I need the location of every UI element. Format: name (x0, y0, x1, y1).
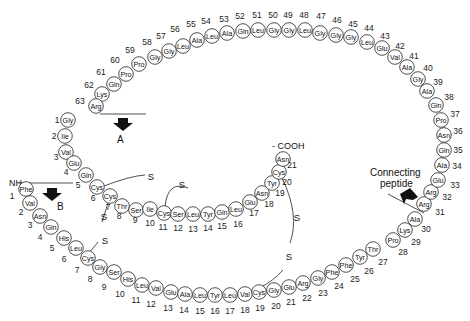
residue-abbr: Leu (361, 38, 373, 47)
residue-number: 16 (210, 306, 220, 316)
chain-b-label: B (57, 201, 64, 212)
residue-abbr: Arg (418, 200, 429, 209)
residue-a-13: Leu13 (186, 207, 201, 234)
residue-number: 17 (225, 306, 235, 316)
residue-abbr: Thr (368, 245, 379, 254)
residue-abbr: Cys (82, 254, 95, 263)
residue-number: 20 (271, 301, 281, 311)
residue-number: 14 (179, 305, 189, 315)
residue-abbr: Leu (299, 26, 311, 35)
residue-abbr: Asn (438, 131, 450, 140)
residue-abbr: Cys (253, 288, 266, 297)
residue-abbr: Ala (410, 215, 420, 224)
residue-b-22: Arg22 (296, 276, 312, 303)
residue-number: 1 (10, 191, 15, 201)
residue-number: 42 (395, 41, 405, 51)
residue-number: 41 (409, 51, 419, 61)
residue-a-14: Tyr14 (201, 207, 216, 233)
chain-a: Gly1Ile2Val3Glu4Gln5Cys6Cys7Thr8Ser9Ile1… (52, 113, 297, 234)
residue-number: 51 (252, 10, 262, 20)
residue-a-6: Cys6 (90, 180, 105, 203)
residue-number: 53 (219, 14, 229, 24)
residue-number: 58 (142, 37, 152, 47)
residue-abbr: Leu (177, 42, 189, 51)
residue-number: 30 (421, 224, 431, 234)
residue-abbr: Gly (269, 286, 280, 295)
residue-abbr: Lys (400, 226, 411, 235)
residue-number: 54 (201, 16, 211, 26)
residue-number: 48 (299, 10, 309, 20)
residue-abbr: Gly (315, 29, 326, 38)
residue-abbr: Ala (180, 290, 190, 299)
residue-abbr: Glu (165, 288, 176, 297)
residue-number: 2 (19, 207, 24, 217)
residue-abbr: His (59, 234, 70, 243)
residue-number: 35 (453, 145, 463, 155)
residue-b-18: Val18 (238, 287, 253, 315)
residue-number: 26 (364, 266, 374, 276)
residue-abbr: Leu (206, 32, 218, 41)
residue-number: 4 (38, 232, 43, 242)
residue-number: 43 (380, 31, 390, 41)
residue-c-53: Ala53 (219, 14, 234, 40)
residue-number: 8 (117, 211, 122, 221)
residue-abbr: Ile (61, 132, 69, 141)
residue-number: 44 (364, 23, 374, 33)
residue-abbr: Gln (216, 208, 227, 217)
residue-abbr: Asn (34, 212, 46, 221)
residue-number: 50 (268, 10, 278, 20)
residue-c-47: Gly47 (313, 11, 328, 40)
residue-c-52: Gln52 (235, 11, 250, 38)
residue-number: 25 (350, 274, 360, 284)
residue-abbr: Glu (68, 159, 79, 168)
residue-number: 8 (88, 274, 93, 284)
residue-a-1: Gly1 (55, 113, 76, 128)
residue-abbr: Gln (108, 80, 119, 89)
residue-abbr: Glu (244, 198, 255, 207)
residue-abbr: Gly (413, 75, 424, 84)
residue-a-11: Cys11 (157, 206, 172, 232)
chain-b: Phe1Val2Asn3Gln4His5Leu6Cys7Gly8Ser9His1… (10, 182, 431, 316)
residue-a-2: Ile2 (52, 129, 73, 144)
residue-number: 19 (275, 188, 285, 198)
sulfur-label: S (286, 251, 292, 262)
residue-abbr: Phe (326, 268, 339, 277)
residue-c-48: Leu48 (298, 10, 313, 37)
residue-c-43: Glu43 (375, 31, 390, 55)
sulfur-label: S (148, 171, 154, 182)
residue-number: 18 (240, 305, 250, 315)
residue-abbr: Ala (402, 63, 412, 72)
residue-b-27: Thr27 (366, 242, 388, 267)
residue-abbr: Cys (273, 168, 286, 177)
residue-abbr: Gly (331, 31, 342, 40)
residue-c-46: Gly46 (329, 15, 344, 42)
residue-abbr: Cys (104, 192, 117, 201)
residue-a-9: Ser9 (129, 203, 144, 225)
residue-abbr: Leu (252, 26, 264, 35)
residue-abbr: Tyr (210, 291, 221, 300)
residue-number: 12 (173, 223, 183, 233)
connecting-peptide-label-line1: Connecting (370, 167, 421, 178)
residue-abbr: Gly (95, 263, 106, 272)
residue-number: 47 (316, 11, 326, 21)
residue-number: 39 (433, 77, 443, 87)
residue-c-51: Leu51 (251, 10, 266, 37)
connecting-peptide-label-line2: peptide (380, 178, 413, 189)
residue-number: 4 (64, 167, 69, 177)
chain-a-label: A (117, 134, 124, 145)
residue-number: 27 (378, 257, 388, 267)
residue-number: 28 (398, 247, 408, 257)
residue-abbr: Gln (438, 146, 449, 155)
residue-b-16: Tyr16 (208, 288, 223, 316)
residue-abbr: Arg (297, 279, 308, 288)
residue-number: 12 (146, 299, 156, 309)
residue-abbr: Val (25, 199, 35, 208)
residue-b-14: Ala14 (178, 287, 193, 315)
residue-abbr: Ala (437, 161, 447, 170)
residue-number: 7 (106, 202, 111, 212)
residue-abbr: Leu (187, 210, 199, 219)
residue-abbr: Arg (425, 188, 436, 197)
residue-b-15: Leu15 (193, 288, 208, 316)
residue-number: 32 (442, 192, 452, 202)
residue-abbr: Ser (172, 210, 184, 219)
